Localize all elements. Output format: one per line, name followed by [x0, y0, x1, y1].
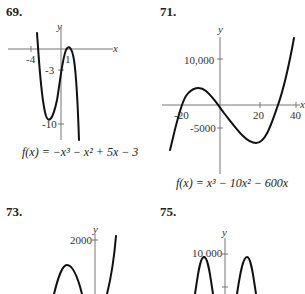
function-caption: f(x) = x³ − 10x² − 600x — [176, 176, 288, 191]
graph-73: y 2000 — [0, 200, 150, 294]
svg-text:2000: 2000 — [70, 234, 93, 246]
svg-text:y: y — [221, 226, 227, 238]
svg-text:1: 1 — [65, 53, 71, 65]
svg-text:10,000: 10,000 — [192, 247, 223, 259]
svg-text:y: y — [92, 223, 98, 235]
svg-text:y: y — [56, 20, 62, 32]
problem-71: 71. x y 10,000 -5000 -20 20 40 f(x) = x³… — [150, 0, 305, 200]
svg-text:20: 20 — [253, 109, 265, 121]
graph-71: x y 10,000 -5000 -20 20 40 — [150, 0, 305, 200]
svg-text:40: 40 — [290, 109, 302, 121]
problem-69: 69. x y -4 1 -3 -10 f(x) = −x³ − x² + 5x… — [0, 0, 150, 180]
function-caption: f(x) = −x³ − x² + 5x − 3 — [22, 145, 138, 160]
svg-text:y: y — [217, 23, 223, 35]
problem-75: 75. y 10,000 — [150, 200, 305, 294]
svg-text:-3: -3 — [45, 64, 55, 76]
svg-text:-20: -20 — [174, 109, 189, 121]
svg-text:x: x — [112, 42, 118, 54]
curve-75 — [195, 257, 213, 294]
svg-text:-5000: -5000 — [190, 122, 216, 134]
graph-75: y 10,000 — [150, 200, 305, 294]
svg-text:10,000: 10,000 — [184, 54, 215, 66]
problem-73: 73. y 2000 — [0, 200, 150, 294]
svg-text:-4: -4 — [26, 53, 36, 65]
curve-73 — [54, 265, 82, 294]
